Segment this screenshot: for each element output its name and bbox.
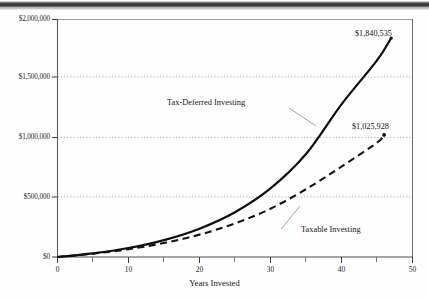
series-annotation-taxable: Taxable Investing — [301, 225, 361, 234]
y-tick-label-2000000: $2,000,000 — [0, 15, 50, 23]
investment-growth-chart: $2,000,000 $1,500,000 $1,000,000 $500,00… — [0, 0, 429, 300]
value-annotation-tax-deferred: $1,840,535 — [355, 29, 392, 38]
y-tick-label-500000: $500,000 — [0, 193, 50, 201]
y-axis-ticks — [52, 20, 58, 258]
x-tick-label-50: 50 — [403, 265, 423, 274]
y-tick-label-1000000: $1,000,000 — [0, 133, 50, 141]
plot-frame — [58, 19, 414, 257]
series-line-taxable-investing — [58, 135, 385, 257]
y-tick-label-0: $0 — [0, 253, 50, 261]
series-annotation-tax-deferred: Tax-Deferred Investing — [167, 98, 245, 107]
x-tick-label-30: 30 — [261, 265, 281, 274]
scanned-page: $2,000,000 $1,500,000 $1,000,000 $500,00… — [0, 0, 429, 300]
annotation-leader-lines — [281, 108, 316, 229]
y-tick-label-1500000: $1,500,000 — [0, 73, 50, 81]
x-axis-title: Years Invested — [0, 278, 429, 288]
chart-plot-svg — [0, 0, 429, 300]
x-tick-label-20: 20 — [190, 265, 210, 274]
value-annotation-taxable: $1,025,928 — [352, 122, 389, 131]
x-axis-ticks — [58, 257, 413, 263]
x-tick-label-10: 10 — [119, 265, 139, 274]
x-tick-label-40: 40 — [332, 265, 352, 274]
endpoint-marker-taxable — [382, 133, 386, 137]
y-gridlines — [58, 77, 413, 197]
x-tick-label-0: 0 — [48, 265, 68, 274]
